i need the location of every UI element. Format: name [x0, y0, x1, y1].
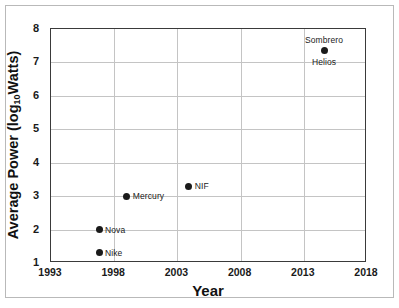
data-point-label: Nike — [105, 248, 122, 258]
x-axis-tick-label: 1993 — [38, 266, 61, 278]
y-axis-title: Average Power (log10Watts) — [5, 51, 21, 240]
y-axis-tick-label: 8 — [0, 22, 44, 34]
x-axis-tick-label: 2003 — [165, 266, 188, 278]
data-points-layer: NikeNovaMercuryNIFSombreroHelios — [51, 29, 365, 261]
plot-area: NikeNovaMercuryNIFSombreroHelios — [50, 28, 366, 262]
data-point-marker[interactable] — [96, 226, 103, 233]
data-point-label: Mercury — [133, 191, 164, 201]
x-axis-tick-label: 2018 — [354, 266, 377, 278]
x-axis-tick-label: 2008 — [228, 266, 251, 278]
data-point-label: Helios — [312, 57, 336, 67]
data-point-label: Nova — [105, 225, 125, 235]
data-point-label: NIF — [195, 181, 209, 191]
data-point-label: Sombrero — [305, 35, 343, 45]
figure-container: Average Power (log10Watts) 12345678 Nike… — [0, 0, 399, 308]
x-axis-tick-label: 2013 — [291, 266, 314, 278]
y-axis-tick-label: 3 — [0, 189, 44, 201]
data-point-marker[interactable] — [321, 47, 328, 54]
x-axis-tick-label: 1998 — [102, 266, 125, 278]
y-axis-tick-label: 6 — [0, 89, 44, 101]
y-axis-tick-label: 4 — [0, 156, 44, 168]
data-point-marker[interactable] — [123, 193, 130, 200]
y-axis-tick-label: 2 — [0, 223, 44, 235]
y-axis-tick-label: 5 — [0, 122, 44, 134]
x-axis-title: Year — [50, 282, 366, 299]
y-axis-tick-label: 7 — [0, 55, 44, 67]
data-point-marker[interactable] — [96, 249, 103, 256]
data-point-marker[interactable] — [185, 183, 192, 190]
